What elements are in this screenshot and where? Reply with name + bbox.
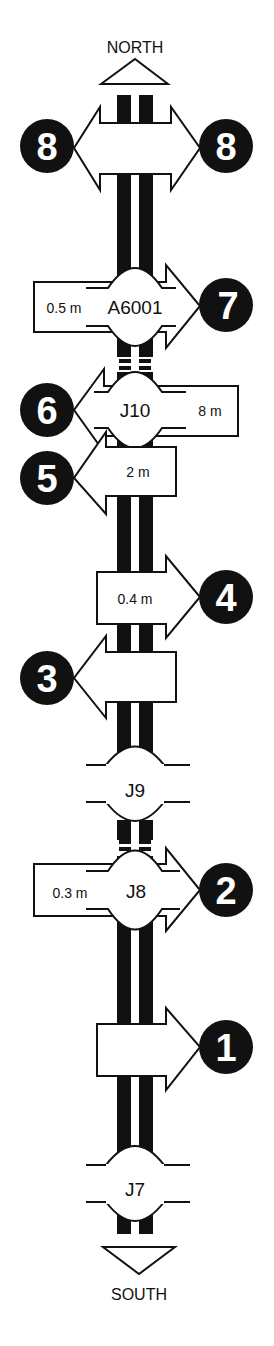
north-label: NORTH xyxy=(107,39,164,56)
svg-text:1: 1 xyxy=(215,1027,236,1069)
junction-j8-label: J8 xyxy=(126,881,146,902)
marker-7: 7 xyxy=(199,278,253,332)
marker-4: 4 xyxy=(199,570,253,624)
svg-text:6: 6 xyxy=(36,390,57,432)
distance-5: 2 m xyxy=(126,464,149,480)
marker-3: 3 xyxy=(20,651,74,705)
svg-text:5: 5 xyxy=(36,458,57,500)
junction-j10-label: J10 xyxy=(120,400,151,421)
distance-7: 0.5 m xyxy=(46,300,81,316)
double-arrow-8 xyxy=(74,107,200,190)
north-triangle-icon xyxy=(101,59,168,84)
motorway-junction-diagram: NORTH 8 8 0.5 m A6001 xyxy=(0,0,274,1346)
svg-text:8: 8 xyxy=(215,126,236,168)
marker-1: 1 xyxy=(199,1020,253,1074)
junction-j9-label: J9 xyxy=(125,780,145,801)
junction-j7-label: J7 xyxy=(125,1179,145,1200)
marker-8-right: 8 xyxy=(199,119,253,173)
south-label: SOUTH xyxy=(111,1286,167,1303)
marker-6: 6 xyxy=(20,383,74,437)
svg-text:7: 7 xyxy=(217,285,238,327)
distance-4: 0.4 m xyxy=(117,591,152,607)
svg-text:8: 8 xyxy=(36,126,57,168)
distance-6: 8 m xyxy=(198,403,221,419)
junction-a6001-label: A6001 xyxy=(108,297,163,318)
svg-text:3: 3 xyxy=(36,658,57,700)
svg-text:4: 4 xyxy=(215,577,236,619)
svg-text:2: 2 xyxy=(215,870,236,912)
distance-2: 0.3 m xyxy=(52,885,87,901)
marker-2: 2 xyxy=(199,863,253,917)
marker-5: 5 xyxy=(20,451,74,505)
marker-8-left: 8 xyxy=(20,119,74,173)
south-triangle-icon xyxy=(103,1247,175,1274)
